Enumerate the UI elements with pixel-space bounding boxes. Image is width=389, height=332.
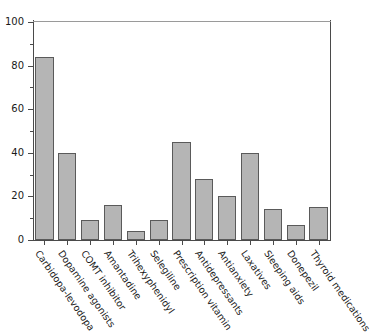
x-axis-category-label: Prescription vitamin <box>170 248 233 332</box>
y-tick-label: 40 <box>11 146 24 159</box>
bar <box>150 220 168 240</box>
x-axis-category-label: Dopamine agonists <box>56 248 118 329</box>
bar <box>309 207 327 240</box>
x-tick-mark <box>273 241 274 245</box>
bar <box>241 153 259 240</box>
bar <box>58 153 76 240</box>
x-tick-mark <box>113 241 114 245</box>
x-tick-mark <box>319 241 320 245</box>
x-tick-mark <box>44 241 45 245</box>
bar <box>35 57 53 240</box>
x-tick-mark <box>136 241 137 245</box>
bar <box>127 231 145 240</box>
y-tick-label: 80 <box>11 59 24 72</box>
x-axis-category-label: Donepezil <box>285 248 321 293</box>
x-axis-category-label: Carbidopa-levodopa <box>33 248 97 332</box>
y-tick-label: 100 <box>5 15 24 28</box>
bar <box>172 142 190 240</box>
bar-chart-figure: 020406080100 Carbidopa-levodopaDopamine … <box>0 0 389 332</box>
y-tick-label: 20 <box>11 189 24 202</box>
y-tick-label: 0 <box>18 233 24 246</box>
bar <box>218 196 236 240</box>
x-tick-mark <box>204 241 205 245</box>
x-tick-mark <box>296 241 297 245</box>
x-axis-category-label: Laxatives <box>239 248 274 291</box>
bar <box>81 220 99 240</box>
x-tick-mark <box>182 241 183 245</box>
y-tick-label: 60 <box>11 102 24 115</box>
bar <box>287 225 305 240</box>
x-axis-category-label: Sleeping aids <box>262 248 307 306</box>
plot-area <box>33 22 330 240</box>
x-tick-mark <box>90 241 91 245</box>
x-axis-category-label: Selegiline <box>148 248 184 292</box>
x-axis-category-label: Amantadine <box>102 248 144 302</box>
x-tick-mark <box>227 241 228 245</box>
x-tick-mark <box>250 241 251 245</box>
bar <box>195 179 213 240</box>
x-axis-category-label: COMT inhibitor <box>79 248 128 312</box>
x-axis-ticks <box>33 241 330 246</box>
right-axis-spine <box>330 20 331 241</box>
bar <box>264 209 282 240</box>
y-axis: 020406080100 <box>0 22 33 240</box>
x-axis-category-label: Antianxiety <box>216 248 256 299</box>
bar <box>104 205 122 240</box>
x-axis-category-label: Trihexyphenidyl <box>125 248 177 316</box>
x-tick-mark <box>67 241 68 245</box>
x-axis-category-label: Thyroid medications <box>308 248 372 332</box>
x-axis-category-label: Antidepressants <box>193 248 246 317</box>
x-tick-mark <box>159 241 160 245</box>
